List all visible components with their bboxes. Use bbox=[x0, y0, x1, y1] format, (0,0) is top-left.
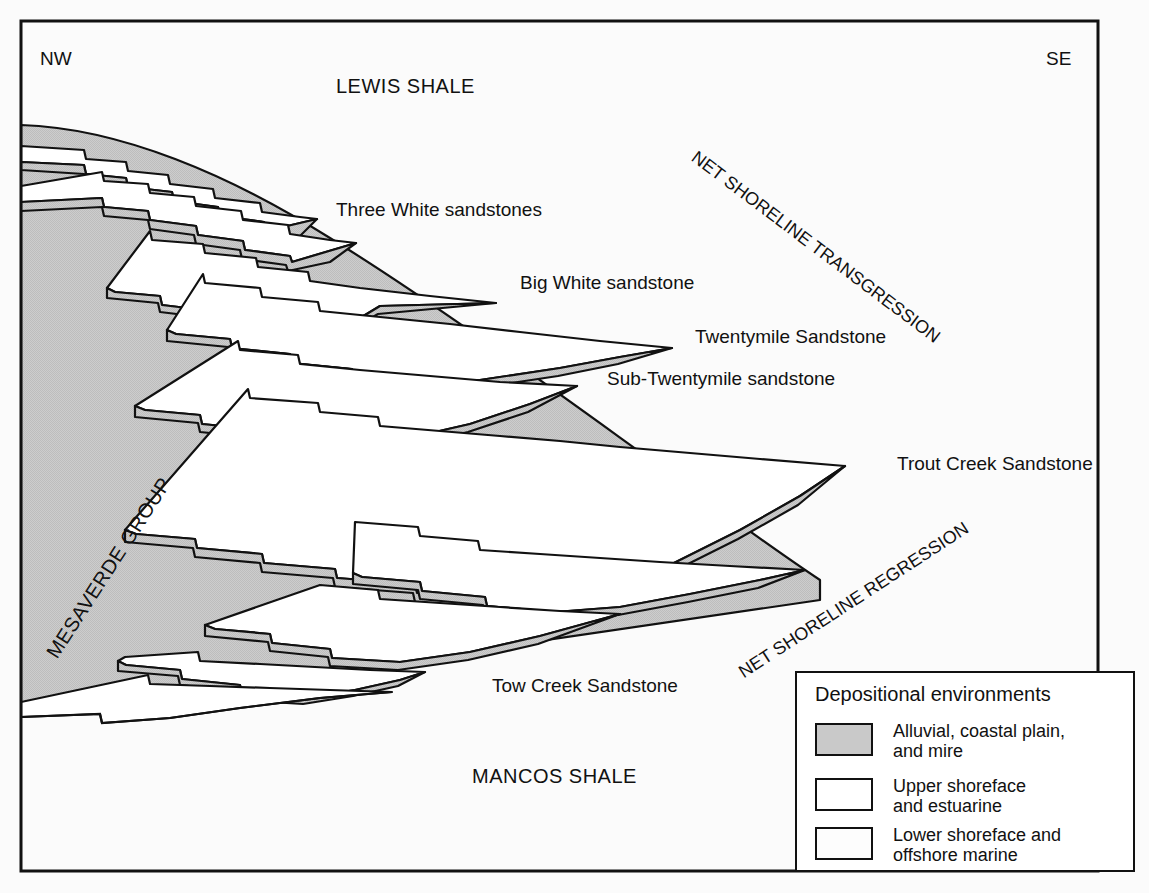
legend-label-upper-shoreface: Upper shoreface and estuarine bbox=[893, 776, 1026, 816]
sandstone-label-big-white: Big White sandstone bbox=[520, 272, 694, 294]
legend-title: Depositional environments bbox=[815, 683, 1051, 706]
orientation-label-se: SE bbox=[1046, 48, 1071, 70]
unit-label-lewis-shale: LEWIS SHALE bbox=[336, 75, 475, 98]
figure-canvas: NW SE LEWIS SHALE MANCOS SHALE MESAVERDE… bbox=[0, 0, 1149, 893]
orientation-label-nw: NW bbox=[40, 48, 72, 70]
legend-swatch-alluvial bbox=[815, 723, 873, 756]
legend-item-lower-shoreface: Lower shoreface and offshore marine bbox=[815, 825, 1061, 865]
legend-label-alluvial: Alluvial, coastal plain, and mire bbox=[893, 721, 1065, 761]
legend-box: Depositional environments Alluvial, coas… bbox=[795, 671, 1135, 872]
sandstone-label-trout-creek: Trout Creek Sandstone bbox=[897, 453, 1093, 475]
legend-swatch-lower-shoreface bbox=[815, 827, 873, 860]
legend-item-upper-shoreface: Upper shoreface and estuarine bbox=[815, 776, 1026, 816]
legend-label-lower-shoreface: Lower shoreface and offshore marine bbox=[893, 825, 1061, 865]
legend-item-alluvial: Alluvial, coastal plain, and mire bbox=[815, 721, 1065, 761]
sandstone-label-three-white: Three White sandstones bbox=[336, 199, 542, 221]
sandstone-label-twentymile: Twentymile Sandstone bbox=[695, 326, 886, 348]
unit-label-mancos-shale: MANCOS SHALE bbox=[472, 765, 637, 788]
sandstone-label-tow-creek: Tow Creek Sandstone bbox=[492, 675, 678, 697]
legend-swatch-upper-shoreface bbox=[815, 778, 873, 811]
sandstone-label-sub-twentymile: Sub-Twentymile sandstone bbox=[607, 368, 835, 390]
